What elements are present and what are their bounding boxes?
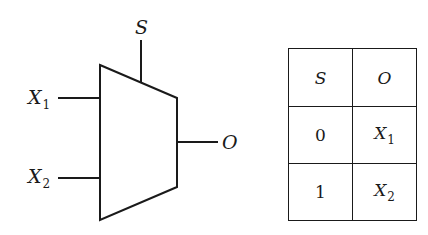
input-label-x1-base: X [28, 86, 42, 108]
table-row: 0 X1 [289, 107, 417, 164]
table-row: 1 X2 [289, 164, 417, 221]
output-label: O [222, 133, 238, 152]
input-label-x2: X2 [28, 167, 50, 190]
cell-s: 0 [289, 107, 353, 164]
cell-o-base: X [374, 123, 386, 143]
input-label-x2-sub: 2 [43, 177, 51, 191]
truth-table: S O 0 X1 1 X2 [288, 48, 417, 221]
truth-table-header: S O [289, 49, 417, 107]
input-label-x1: X1 [28, 88, 50, 111]
header-s: S [289, 49, 353, 107]
mux-trapezoid [100, 65, 177, 220]
cell-o-base: X [374, 180, 386, 200]
input-label-x1-sub: 1 [43, 98, 51, 112]
input-label-x2-base: X [28, 165, 42, 187]
cell-o-sub: 2 [387, 190, 395, 204]
select-label: S [135, 18, 148, 37]
cell-o-sub: 1 [387, 133, 395, 147]
header-o: O [353, 49, 417, 107]
cell-s: 1 [289, 164, 353, 221]
cell-o: X2 [353, 164, 417, 221]
cell-o: X1 [353, 107, 417, 164]
